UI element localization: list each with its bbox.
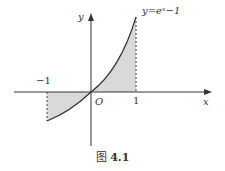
shaded-region-positive: [91, 17, 136, 92]
tick-label-1: 1: [133, 96, 139, 106]
y-axis-arrow-icon: [88, 13, 94, 21]
tick-label-neg1: −1: [36, 76, 51, 86]
x-axis-label: x: [203, 97, 209, 107]
curve-label: y=eˣ−1: [142, 6, 180, 16]
caption-number: 4.1: [110, 151, 129, 164]
origin-label: O: [95, 97, 103, 107]
y-axis-label: y: [78, 12, 84, 22]
shaded-region-negative: [47, 92, 91, 121]
caption-prefix: 图: [96, 151, 107, 164]
figure-canvas: [0, 0, 225, 171]
figure-caption: 图 4.1: [0, 148, 225, 164]
x-axis-arrow-icon: [204, 89, 212, 95]
